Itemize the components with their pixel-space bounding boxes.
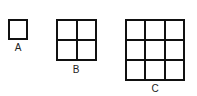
grid-cell xyxy=(145,60,164,80)
figure-label-a: A xyxy=(8,43,28,53)
grid-cell xyxy=(126,40,145,60)
grid-cell xyxy=(77,40,97,60)
grid-cell xyxy=(145,40,164,60)
grid-cell xyxy=(165,20,184,40)
grid-cell xyxy=(126,20,145,40)
grid-cell xyxy=(57,20,77,40)
grid-cell xyxy=(57,40,77,60)
square-grid-1x1 xyxy=(8,19,28,40)
grid-cell xyxy=(165,40,184,60)
figure-label-b: B xyxy=(66,65,86,75)
grid-cell xyxy=(145,20,164,40)
figure-label-c: C xyxy=(145,84,165,94)
square-grid-3x3 xyxy=(125,19,185,81)
grid-cell xyxy=(9,20,27,39)
grid-cell xyxy=(126,60,145,80)
grid-cell xyxy=(77,20,97,40)
square-grid-2x2 xyxy=(56,19,97,61)
grid-cell xyxy=(165,60,184,80)
